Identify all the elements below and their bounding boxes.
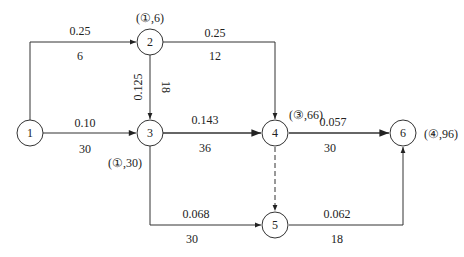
node-1: 1 <box>17 120 43 146</box>
edge-1-3: 0.10 30 <box>43 116 136 156</box>
node-2-label: 2 <box>147 35 153 49</box>
node-4-label: 4 <box>272 126 278 140</box>
edge-4-6-time: 30 <box>324 141 336 155</box>
edge-3-5-weight: 0.068 <box>183 207 210 221</box>
edge-5-6-weight: 0.062 <box>324 207 351 221</box>
node-6-label: 6 <box>400 126 406 140</box>
edge-3-4: 0.143 36 <box>163 113 261 155</box>
node-6: 6 (④,96) <box>390 120 458 146</box>
node-4-annotation: (③,66) <box>289 108 323 122</box>
edge-2-3: 0.125 18 <box>131 55 173 119</box>
edge-1-2-weight: 0.25 <box>70 24 91 38</box>
edge-5-6-time: 18 <box>331 232 343 246</box>
node-2: 2 (①,6) <box>136 11 164 55</box>
node-5: 5 <box>262 212 288 238</box>
edge-2-4-time: 12 <box>209 49 221 63</box>
edge-2-3-weight: 0.125 <box>131 74 145 101</box>
edge-3-4-time: 36 <box>199 141 211 155</box>
network-diagram: 0.25 6 0.10 30 0.125 18 0.25 12 0.143 36… <box>0 0 464 257</box>
node-5-label: 5 <box>272 218 278 232</box>
edge-1-3-time: 30 <box>79 142 91 156</box>
edge-3-5: 0.068 30 <box>150 146 261 246</box>
node-6-annotation: (④,96) <box>424 127 458 141</box>
edge-2-4: 0.25 12 <box>163 26 275 119</box>
edge-3-5-time: 30 <box>186 232 198 246</box>
edge-1-3-weight: 0.10 <box>75 116 96 130</box>
node-4: 4 (③,66) <box>262 108 323 146</box>
node-2-annotation: (①,6) <box>136 11 164 25</box>
node-3-annotation: (①,30) <box>108 156 142 170</box>
edge-1-2-time: 6 <box>77 49 83 63</box>
edge-5-6: 0.062 18 <box>289 147 403 246</box>
edge-2-4-weight: 0.25 <box>205 26 226 40</box>
node-1-label: 1 <box>27 126 33 140</box>
edge-2-3-time: 18 <box>159 81 173 93</box>
node-3-label: 3 <box>147 126 153 140</box>
edge-3-4-weight: 0.143 <box>192 113 219 127</box>
edge-1-2: 0.25 6 <box>30 24 136 120</box>
edge-4-6-weight: 0.057 <box>320 115 347 129</box>
node-3: 3 (①,30) <box>108 120 163 170</box>
